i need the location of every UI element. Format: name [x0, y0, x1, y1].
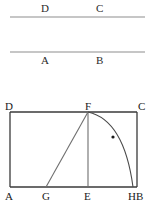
vertex-label-A: A — [5, 191, 13, 202]
label-A-top: A — [41, 55, 49, 66]
arc-marker-dot — [111, 135, 114, 138]
vertex-label-F: F — [85, 101, 91, 112]
vertex-label-HB: HB — [128, 191, 143, 202]
vertex-label-E: E — [84, 191, 91, 202]
vertex-label-C: C — [138, 101, 145, 112]
segment-GF — [46, 112, 88, 187]
label-C-top: C — [96, 3, 103, 14]
label-D-top: D — [41, 3, 49, 14]
label-B-top: B — [96, 55, 103, 66]
arc-F-to-H — [88, 112, 133, 187]
vertex-label-G: G — [42, 191, 50, 202]
figure-canvas — [0, 0, 156, 212]
vertex-label-D: D — [5, 101, 13, 112]
geometry-figure: D C A B D F C A G E HB — [0, 0, 156, 212]
